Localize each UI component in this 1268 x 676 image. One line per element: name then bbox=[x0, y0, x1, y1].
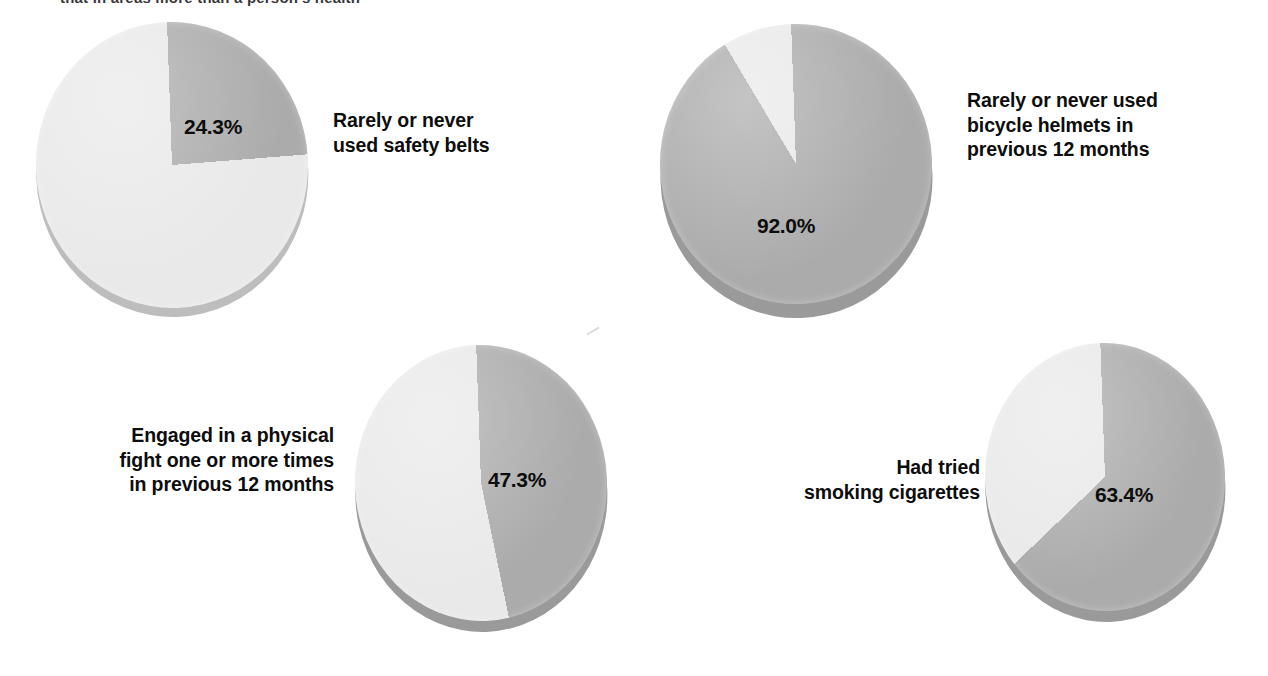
page-title: that in areas more than a person's healt… bbox=[60, 0, 360, 6]
pie-value-label: 92.0% bbox=[757, 214, 815, 238]
pie-geometry bbox=[31, 17, 313, 312]
pie-caption-bicycle-helmets: Rarely or never used bicycle helmets in … bbox=[967, 88, 1257, 162]
pie-chart-safety-belts: 24.3% bbox=[36, 22, 336, 312]
pie-value-label: 24.3% bbox=[184, 115, 242, 139]
pie-caption-safety-belts: Rarely or never used safety belts bbox=[333, 108, 563, 157]
pie-geometry bbox=[350, 341, 611, 626]
pie-chart-physical-fight: 47.3% bbox=[355, 345, 635, 635]
pie-chart-smoking-cigarettes: 63.4% bbox=[985, 343, 1255, 633]
scan-speck bbox=[586, 327, 599, 336]
pie-caption-physical-fight: Engaged in a physical fight one or more … bbox=[44, 423, 334, 497]
page-title-strip: that in areas more than a person's healt… bbox=[0, 0, 1268, 9]
pie-geometry bbox=[655, 19, 937, 308]
pie-value-label: 63.4% bbox=[1095, 483, 1153, 507]
pie-caption-smoking-cigarettes: Had tried smoking cigarettes bbox=[710, 455, 980, 504]
pie-chart-bicycle-helmets: 92.0% bbox=[660, 24, 960, 314]
pie-geometry bbox=[980, 339, 1229, 615]
pie-value-label: 47.3% bbox=[488, 468, 546, 492]
